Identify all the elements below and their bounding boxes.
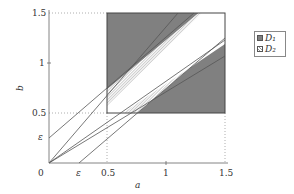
x-tick-eps: ε (76, 168, 81, 178)
x-tick-1: 1 (163, 168, 169, 178)
y-tick-1: 1 (39, 58, 45, 68)
x-tick-1-5: 1.5 (219, 168, 234, 178)
x-tick-0: 0 (38, 168, 44, 178)
legend: D₁ D₂ (254, 31, 286, 57)
y-tick-eps: ε (38, 132, 43, 142)
legend-item-d1: D₁ (255, 32, 285, 43)
y-axis-label: b (15, 85, 25, 91)
hatched-swatch-icon (257, 46, 263, 52)
y-tick-1-5: 1.5 (32, 8, 47, 18)
legend-label-d2: D₂ (265, 44, 276, 54)
diagram: 0 ε 0.5 1 1.5 a ε 0.5 1 1.5 b (0, 0, 294, 194)
legend-item-d2: D₂ (255, 43, 285, 54)
x-tick-0-5: 0.5 (101, 168, 116, 178)
x-axis-label: a (135, 180, 140, 190)
legend-label-d1: D₁ (265, 33, 276, 43)
y-tick-0-5: 0.5 (32, 108, 47, 118)
solid-swatch-icon (257, 35, 263, 41)
